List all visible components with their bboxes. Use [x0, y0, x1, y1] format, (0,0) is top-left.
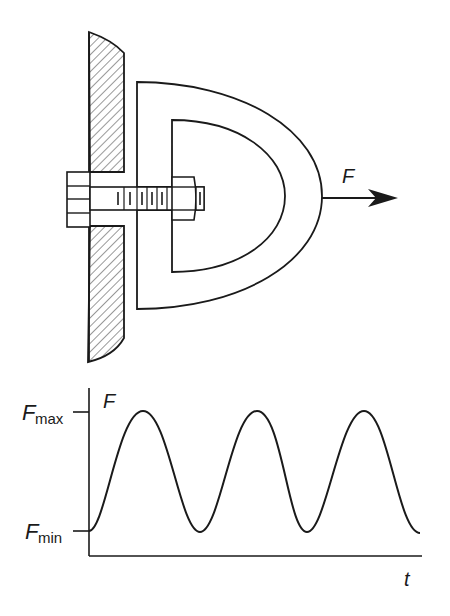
force-arrow: F — [322, 165, 398, 207]
nut — [172, 177, 204, 220]
svg-text:max: max — [35, 410, 64, 427]
svg-text:min: min — [38, 529, 62, 546]
fmin-label: F min — [25, 519, 62, 546]
bolt-head — [67, 172, 90, 227]
force-time-graph: F t F max F min — [22, 388, 422, 590]
load-curve — [89, 411, 420, 533]
fmax-label: F max — [22, 400, 64, 427]
force-label: F — [342, 165, 356, 187]
y-axis-label: F — [103, 390, 117, 412]
diagram-canvas: F F t F max F min — [0, 0, 450, 616]
x-axis-label: t — [404, 568, 411, 590]
